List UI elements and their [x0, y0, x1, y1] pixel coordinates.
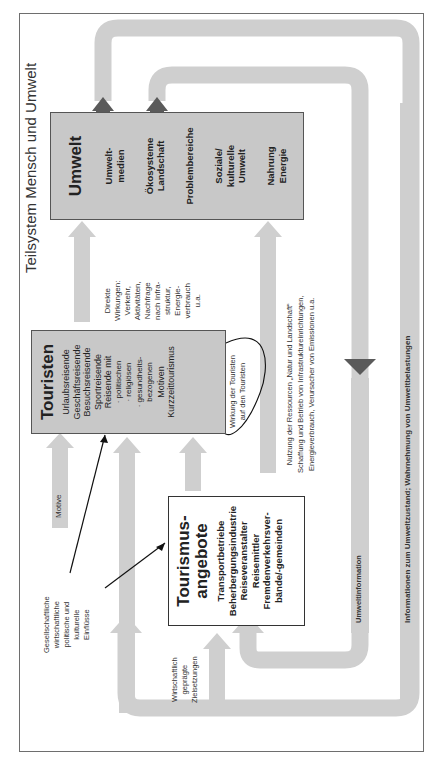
umwelt-item: Problembereiche [184, 127, 196, 204]
touristen-item: Motiven [156, 366, 167, 398]
page-title: Teilsystem Mensch und Umwelt [22, 63, 39, 273]
umwelt-item: Ökosysteme Landschaft [144, 138, 167, 195]
diagram-canvas: Teilsystem Mensch und Umwelt Umwelt Umwe… [0, 0, 440, 773]
tourismus-item: Reiseveranstalter [238, 521, 250, 600]
arrow-tourismus-touristen [179, 437, 207, 453]
touristen-item: · religiösen [124, 362, 135, 401]
tourismusangebote-box: Tourismus- angebote Transportbetriebe Be… [168, 496, 305, 626]
umwelt-title: Umwelt [66, 136, 86, 196]
touristen-item: Urlaubsreisende [61, 349, 72, 415]
einfluesse-label: Gesellschaftliche wirtschaftliche politi… [42, 596, 92, 653]
umwelt-item: Soziale/ kulturelle Umwelt [213, 145, 248, 187]
tourismus-item: bände/-gemeinden [273, 519, 285, 603]
touristen-title: Touristen [38, 344, 58, 420]
touristen-item: Besuchsreisende [82, 347, 93, 416]
touristen-item: bezogenen [145, 362, 156, 402]
informationen-label: Informationen zum Umweltzustand; Wahrneh… [403, 336, 412, 623]
umweltinformation-arrowhead [344, 359, 376, 375]
arrow-nutzung-umwelt [254, 221, 282, 237]
tourismus-item: Fremdenverkehrsver- [261, 512, 273, 609]
touristen-item: · gesundheits- [135, 357, 146, 408]
touristen-item: Geschäftsreisende [72, 344, 83, 419]
tourismusangebote-title: Tourismus- angebote [175, 515, 211, 606]
touristen-item: Reisende mit [103, 356, 114, 409]
tourismus-item: Transportbetriebe [215, 521, 227, 602]
wirkung-touristen-label: Wirkung der Touristen auf den Touristen [228, 355, 248, 428]
zielsetzungen-arrow [203, 633, 231, 649]
touristen-item: Kurzzeittourismus [166, 346, 177, 418]
touristen-item: · politischen [114, 361, 125, 404]
tourismus-item: Reisemittler [250, 534, 262, 588]
arrow-into-touristen-middle [113, 437, 141, 453]
umwelt-item: Umwelt- medien [103, 148, 126, 185]
motive-label: Motive [54, 494, 63, 518]
motive-arrow [46, 433, 74, 448]
umwelt-box: Umwelt Umwelt- medien Ökosysteme Landsch… [50, 112, 304, 220]
arrow-touristen-umwelt-left [68, 221, 96, 237]
nutzung-label: Nutzung der Ressourcen „Natur und Landsc… [284, 296, 317, 473]
direkte-wirkungen-label: Direkte Wirkungen: Verkehr, Aktivitäten,… [103, 281, 203, 321]
umwelt-item: Nahrung Energie [265, 146, 288, 185]
line-einfluesse-touristen [70, 435, 105, 573]
tourismus-item: Beherbergungsindustrie [227, 506, 239, 616]
touristen-item: Sportreisende [93, 354, 104, 410]
zielsetzungen-label: Wirtschaftlich geprägte Zielsetzungen [170, 656, 200, 703]
umweltinformation-label: Umweltinformation [354, 555, 363, 623]
touristen-box: Touristen Urlaubsreisende Geschäftsreise… [31, 330, 226, 434]
